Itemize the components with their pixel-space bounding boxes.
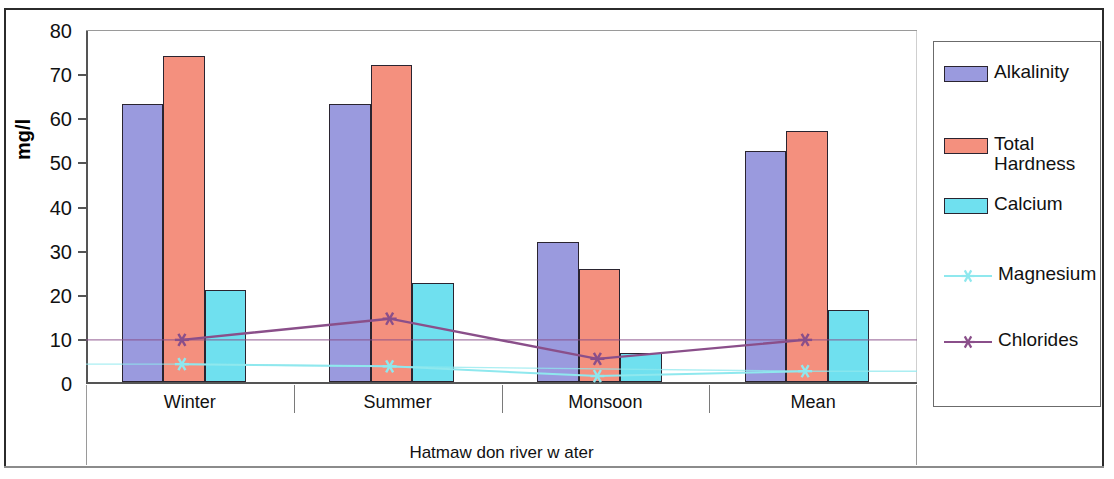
y-tick-label: 0 (26, 373, 72, 396)
bar-total-hardness-mean (786, 131, 828, 383)
legend-item-chlorides[interactable]: Chlorides (944, 330, 1096, 351)
chart-screenshot: mg/l 01020304050607080 WinterSummerMonso… (0, 0, 1114, 479)
legend-item-magnesium[interactable]: Magnesium (944, 264, 1096, 285)
bar-alkalinity-monsoon (537, 242, 579, 382)
x-category-separator (294, 385, 295, 413)
legend-label: Calcium (994, 194, 1063, 214)
bar-calcium-mean (828, 310, 870, 382)
line-marker-star-icon (944, 333, 992, 351)
legend-label: Magnesium (998, 264, 1096, 284)
y-tick-label: 10 (26, 329, 72, 352)
plot-area (86, 31, 917, 384)
x-category-label-summer: Summer (294, 392, 502, 413)
legend-label: Alkalinity (994, 62, 1069, 82)
swatch-alkalinity-icon (944, 66, 988, 82)
bar-alkalinity-mean (745, 151, 787, 382)
legend-label: Total Hardness (994, 134, 1075, 174)
bar-calcium-monsoon (620, 353, 662, 382)
x-category-label-mean: Mean (709, 392, 917, 413)
y-tick-label: 40 (26, 197, 72, 220)
legend-item-total-hardness[interactable]: Total Hardness (944, 134, 1096, 174)
swatch-hardness-icon (944, 138, 988, 154)
y-tick-label: 70 (26, 64, 72, 87)
bar-calcium-summer (412, 283, 454, 382)
y-tick-label: 50 (26, 152, 72, 175)
swatch-calcium-icon (944, 198, 988, 214)
bar-alkalinity-summer (329, 104, 371, 382)
page-bottom-rule (4, 466, 1104, 468)
x-category-separator (502, 385, 503, 413)
legend-item-alkalinity[interactable]: Alkalinity (944, 62, 1096, 82)
chart-legend: AlkalinityTotal HardnessCalciumMagnesium… (933, 41, 1101, 407)
bar-total-hardness-winter (163, 56, 205, 382)
legend-item-calcium[interactable]: Calcium (944, 194, 1096, 214)
x-category-label-monsoon: Monsoon (502, 392, 710, 413)
y-tick-label: 30 (26, 241, 72, 264)
y-tick-label: 60 (26, 108, 72, 131)
bar-calcium-winter (205, 290, 247, 382)
y-tick-label: 20 (26, 285, 72, 308)
x-axis-title: Hatmaw don river w ater (86, 443, 917, 463)
bar-total-hardness-summer (371, 65, 413, 382)
x-category-label-winter: Winter (86, 392, 294, 413)
bar-alkalinity-winter (122, 104, 164, 382)
x-category-separator (709, 385, 710, 413)
legend-label: Chlorides (998, 330, 1078, 350)
line-marker-x-icon (944, 267, 992, 285)
y-tick-label: 80 (26, 20, 72, 43)
bar-total-hardness-monsoon (579, 269, 621, 382)
